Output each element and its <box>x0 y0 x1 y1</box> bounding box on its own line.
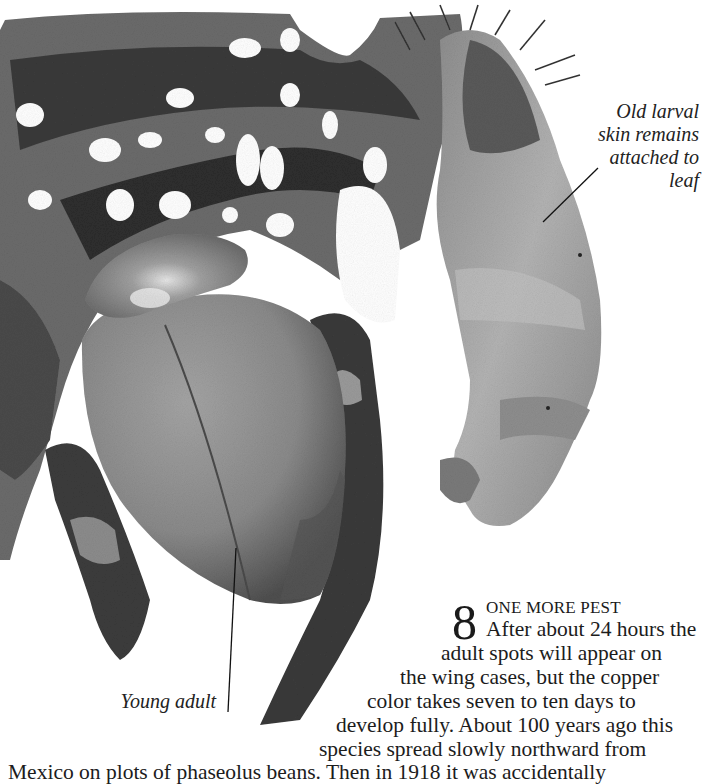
body-line: After about 24 hours the <box>486 617 696 641</box>
step-number: 8 <box>452 597 477 647</box>
body-line: develop fully. About 100 years ago this <box>336 713 673 737</box>
caption-line: Old larval <box>509 100 699 123</box>
caption-line: skin remains <box>509 123 699 146</box>
step-heading: ONE MORE PEST <box>486 598 621 618</box>
caption-larval-skin: Old larval skin remains attached to leaf <box>509 100 699 192</box>
caption-line: leaf <box>509 169 699 192</box>
caption-line: attached to <box>509 146 699 169</box>
caption-young-adult: Young adult <box>106 690 216 713</box>
body-line: the wing cases, but the copper <box>400 665 659 689</box>
body-line: adult spots will appear on <box>441 641 662 665</box>
body-line: species spread slowly northward from <box>319 737 646 761</box>
body-line: Mexico on plots of phaseolus beans. Then… <box>8 760 606 784</box>
body-line: color takes seven to ten days to <box>367 689 636 713</box>
